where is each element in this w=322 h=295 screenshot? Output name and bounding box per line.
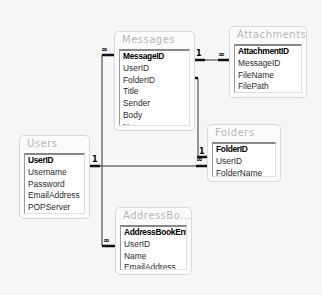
- field[interactable]: UserID: [121, 239, 186, 251]
- field-primary-key[interactable]: AddressBookEntr: [121, 227, 186, 239]
- field[interactable]: FolderName: [213, 168, 275, 177]
- table-folders[interactable]: Folders FolderID UserID FolderName: [207, 124, 281, 182]
- field[interactable]: Name: [121, 251, 186, 263]
- field-list[interactable]: FolderID UserID FolderName: [212, 142, 276, 177]
- field-list[interactable]: UserID Username Password EmailAddress PO…: [24, 153, 85, 214]
- table-title: Users: [20, 136, 89, 152]
- cardinality-one: 1: [199, 147, 205, 156]
- table-attachments[interactable]: Attachments AttachmentID MessageID FileN…: [229, 26, 307, 98]
- field-primary-key[interactable]: UserID: [25, 155, 84, 167]
- field-primary-key[interactable]: FolderID: [213, 144, 275, 156]
- cardinality-one: 1: [92, 155, 98, 164]
- field[interactable]: UserID: [213, 156, 275, 168]
- cardinality-many: ∞: [103, 236, 110, 245]
- cardinality-one: 1: [196, 49, 202, 58]
- field[interactable]: Username: [25, 167, 84, 179]
- field-list[interactable]: AddressBookEntr UserID Name EmailAddress: [120, 225, 187, 270]
- field[interactable]: New: [120, 122, 189, 126]
- table-addressbook[interactable]: AddressBo... AddressBookEntr UserID Name…: [115, 207, 192, 275]
- field[interactable]: FolderID: [120, 75, 189, 87]
- field-list[interactable]: MessageID UserID FolderID Title Sender B…: [119, 49, 190, 126]
- table-title: Attachments: [230, 27, 306, 43]
- field[interactable]: Title: [120, 86, 189, 98]
- table-title: AddressBo...: [116, 208, 191, 224]
- field[interactable]: MessageID: [235, 58, 301, 70]
- relationship-users-addressbook[interactable]: ∞: [102, 166, 115, 246]
- field[interactable]: EmailAddress: [25, 190, 84, 202]
- relationship-users-messages[interactable]: ∞: [101, 45, 114, 166]
- field[interactable]: POPServer: [25, 202, 84, 214]
- cardinality-many: ∞: [101, 45, 108, 54]
- cardinality-many: ∞: [218, 50, 225, 59]
- field[interactable]: FilePath: [235, 81, 301, 93]
- relationship-users-folders[interactable]: 1 ∞: [90, 155, 207, 166]
- table-title: Folders: [208, 125, 280, 141]
- table-messages[interactable]: Messages MessageID UserID FolderID Title…: [114, 31, 195, 131]
- field[interactable]: Sender: [120, 98, 189, 110]
- field[interactable]: EmailAddress: [121, 262, 186, 270]
- field-primary-key[interactable]: AttachmentID: [235, 46, 301, 58]
- field[interactable]: UserID: [120, 63, 189, 75]
- field[interactable]: Body: [120, 110, 189, 122]
- field-list[interactable]: AttachmentID MessageID FileName FilePath: [234, 44, 302, 93]
- field-primary-key[interactable]: MessageID: [120, 51, 189, 63]
- table-title: Messages: [115, 32, 194, 48]
- field[interactable]: Password: [25, 179, 84, 191]
- relationship-messages-attachments[interactable]: 1 ∞: [194, 49, 229, 60]
- table-users[interactable]: Users UserID Username Password EmailAddr…: [19, 135, 90, 219]
- field[interactable]: FileName: [235, 70, 301, 82]
